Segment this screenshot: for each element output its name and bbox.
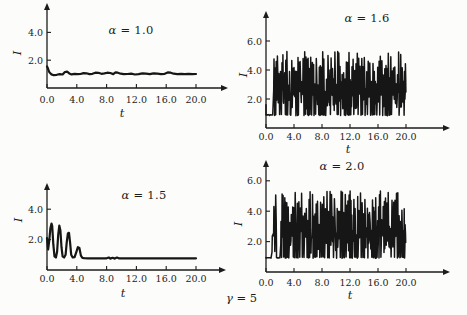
gamma-variable: γ <box>226 291 233 305</box>
y-tick-label: 4.0 <box>28 27 43 38</box>
y-axis-arrowhead-icon <box>44 183 50 190</box>
x-tick-label: 4.0 <box>69 94 84 105</box>
x-tick-label: 12.0 <box>339 277 360 288</box>
x-tick-label: 16.0 <box>367 277 388 288</box>
x-axis-label: t <box>343 288 357 302</box>
x-tick-label: 12.0 <box>339 131 360 142</box>
plot-title-variable: α <box>319 159 327 173</box>
y-axis-label: I <box>10 51 24 56</box>
plot-title-variable: α <box>344 11 352 25</box>
x-tick-label: 4.0 <box>286 131 301 142</box>
x-tick-label: 16.0 <box>367 131 388 142</box>
plot-title-value: = 1.0 <box>117 23 154 37</box>
x-tick-label: 4.0 <box>69 273 84 284</box>
x-tick-label: 20.0 <box>395 131 416 142</box>
x-axis-arrowhead-icon <box>221 85 228 91</box>
y-axis-arrowhead-icon <box>263 11 269 18</box>
x-axis-label: t <box>116 286 130 300</box>
figure-four-panel-timeseries: 0.04.08.012.016.020.02.04.0 α = 1.0 I t … <box>0 0 467 315</box>
y-tick-label: 2.0 <box>28 234 43 245</box>
y-tick-label: 2.0 <box>247 94 262 105</box>
y-tick-label: 2.0 <box>28 55 43 66</box>
x-tick-label: 0.0 <box>39 273 54 284</box>
x-tick-label: 12.0 <box>126 94 147 105</box>
x-tick-label: 16.0 <box>156 273 177 284</box>
plot-title: α = 1.0 <box>95 23 167 37</box>
x-tick-label: 20.0 <box>185 94 206 105</box>
x-tick-label: 12.0 <box>126 273 147 284</box>
x-tick-label: 8.0 <box>99 273 114 284</box>
plot-panel-alpha-1-5: 0.04.08.012.016.020.02.04.0 α = 1.5 I t <box>0 157 233 315</box>
y-axis-arrowhead-icon <box>44 3 50 10</box>
x-tick-label: 0.0 <box>258 277 273 288</box>
y-tick-label: 6.0 <box>247 175 262 186</box>
plot-title-value: = 1.5 <box>130 188 167 202</box>
x-axis-arrowhead-icon <box>443 125 450 131</box>
x-tick-label: 8.0 <box>314 277 329 288</box>
plot-title: α = 2.0 <box>306 159 378 173</box>
x-axis-label: t <box>341 142 355 156</box>
series-path <box>47 224 196 259</box>
plot-panel-alpha-2-0: 0.04.08.012.016.020.02.04.06.0 α = 2.0 I… <box>233 157 467 315</box>
x-axis-arrowhead-icon <box>219 267 226 273</box>
series-path <box>266 191 406 258</box>
x-tick-label: 8.0 <box>99 94 114 105</box>
plot-title: α = 1.6 <box>331 11 403 25</box>
series-path <box>266 52 406 116</box>
plot-panel-alpha-1-0: 0.04.08.012.016.020.02.04.0 α = 1.0 I t <box>0 0 233 155</box>
plot-title-variable: α <box>121 188 129 202</box>
gamma-value: = 5 <box>233 291 257 305</box>
x-tick-label: 20.0 <box>395 277 416 288</box>
x-axis-arrowhead-icon <box>443 269 450 275</box>
x-tick-label: 8.0 <box>314 131 329 142</box>
x-tick-label: 4.0 <box>286 277 301 288</box>
x-tick-label: 0.0 <box>39 94 54 105</box>
plot-title: α = 1.5 <box>108 188 180 202</box>
plot-title-variable: α <box>108 23 116 37</box>
y-axis-label: I <box>11 218 25 223</box>
y-tick-label: 6.0 <box>247 36 262 47</box>
x-axis-label: t <box>115 106 129 120</box>
plot-panel-alpha-1-6: 0.04.08.012.016.020.02.04.06.0 α = 1.6 I… <box>233 0 467 157</box>
x-tick-label: 16.0 <box>156 94 177 105</box>
x-tick-label: 0.0 <box>258 131 273 142</box>
x-tick-label: 20.0 <box>185 273 206 284</box>
series-path <box>47 67 196 76</box>
y-tick-label: 4.0 <box>247 206 262 217</box>
y-axis-arrowhead-icon <box>263 160 269 167</box>
y-tick-label: 4.0 <box>28 204 43 215</box>
plot-title-value: = 2.0 <box>328 159 365 173</box>
plot-title-value: = 1.6 <box>353 11 390 25</box>
y-tick-label: 2.0 <box>247 236 262 247</box>
gamma-parameter-label: γ = 5 <box>226 291 257 305</box>
y-axis-label: I <box>231 222 245 227</box>
y-axis-label: I <box>236 73 250 78</box>
